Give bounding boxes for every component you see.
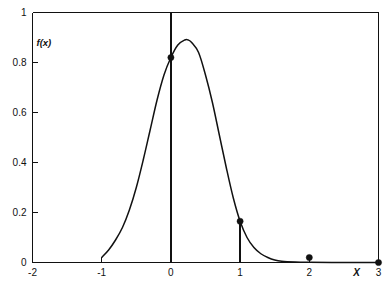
x-tick-label: 1 bbox=[237, 267, 243, 278]
plot-axes bbox=[33, 13, 379, 263]
x-tick-label: 2 bbox=[307, 267, 313, 278]
x-tick-label: 3 bbox=[376, 267, 382, 278]
y-tick-label: 0.4 bbox=[13, 157, 27, 168]
x-tick-label: 0 bbox=[168, 267, 174, 278]
y-tick-label: 0.8 bbox=[13, 57, 27, 68]
data-point-marker bbox=[375, 259, 381, 265]
x-tick-label: -2 bbox=[28, 267, 37, 278]
y-tick-label: 0.2 bbox=[13, 207, 27, 218]
y-tick-label: 0.6 bbox=[13, 107, 27, 118]
data-point-marker bbox=[168, 54, 174, 60]
x-tick-label: -1 bbox=[97, 267, 106, 278]
y-tick-label: 0 bbox=[21, 257, 27, 268]
data-point-marker bbox=[306, 254, 312, 260]
figure-caption bbox=[8, 279, 158, 289]
x-axis-title: X bbox=[352, 267, 361, 278]
density-curve-chart: 00.20.40.60.81-2-10123f(x)X bbox=[0, 0, 392, 289]
plot-frame bbox=[33, 13, 379, 263]
y-axis-title: f(x) bbox=[37, 37, 52, 48]
y-tick-label: 1 bbox=[21, 7, 27, 18]
data-point-marker bbox=[237, 218, 243, 224]
figure-container: 00.20.40.60.81-2-10123f(x)X bbox=[0, 0, 392, 289]
